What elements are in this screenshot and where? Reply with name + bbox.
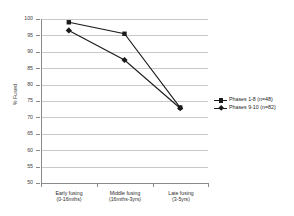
- legend-marker-diamond-icon: [214, 108, 227, 109]
- line-chart: 100 95 90 85 80 75 70 65 60 55 50 % Fuse…: [0, 0, 294, 216]
- legend-marker-square-icon: [214, 100, 227, 101]
- legend-label-1: Phases 9-10 (n=82): [229, 104, 276, 111]
- legend: Phases 1-8 (n=48) Phases 9-10 (n=82): [214, 97, 294, 113]
- data-point-s1-0: [66, 27, 72, 33]
- legend-label-0: Phases 1-8 (n=48): [229, 96, 273, 103]
- data-point-s0-0: [67, 20, 71, 24]
- series-line-1: [69, 30, 180, 108]
- data-point-s0-1: [122, 32, 126, 36]
- legend-entry-1[interactable]: Phases 9-10 (n=82): [214, 105, 294, 113]
